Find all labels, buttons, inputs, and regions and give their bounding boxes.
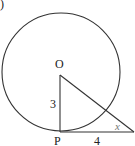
label-op-length: 3 xyxy=(50,97,56,111)
label-o: O xyxy=(55,57,64,71)
geometry-diagram: ) O 3 P 4 x xyxy=(0,0,135,146)
label-p: P xyxy=(54,134,61,146)
label-angle-x: x xyxy=(114,120,120,132)
label-tangent-length: 4 xyxy=(94,134,100,146)
corner-mark: ) xyxy=(0,0,4,11)
circle xyxy=(2,13,120,131)
secant-line xyxy=(60,75,134,132)
